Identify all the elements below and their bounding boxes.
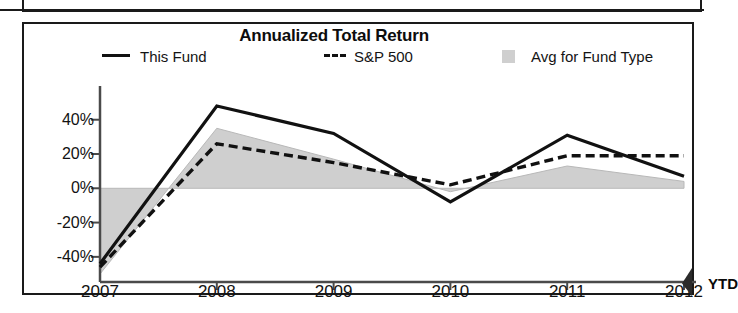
y-axis-tick-label: 20% — [32, 145, 94, 163]
y-axis-tick-label: -40% — [32, 248, 94, 266]
x-axis-ytd-label: YTD — [708, 275, 738, 292]
y-axis-tick-label: 0% — [32, 179, 94, 197]
scan-artifact-top-box — [22, 0, 702, 12]
chart-plot-area — [24, 24, 696, 297]
x-axis-tick-label: 2008 — [198, 282, 236, 302]
x-axis-tick-label: 2007 — [81, 282, 119, 302]
x-axis-tick-label: 2011 — [549, 282, 586, 302]
series-line-sp500 — [100, 144, 684, 267]
x-axis-tick-labels: 200720082009201020112012 — [24, 272, 696, 302]
y-axis-tick-label: 40% — [32, 111, 94, 129]
x-axis-tick-label: 2010 — [431, 282, 469, 302]
x-axis-tick-label: 2009 — [315, 282, 353, 302]
series-area-avg-for-fund-type — [100, 128, 684, 274]
chart-panel: Annualized Total Return This Fund S&P 50… — [22, 22, 694, 295]
y-axis-tick-labels: 40%20%0%-20%-40% — [32, 24, 94, 297]
y-axis-tick-label: -20% — [32, 214, 94, 232]
